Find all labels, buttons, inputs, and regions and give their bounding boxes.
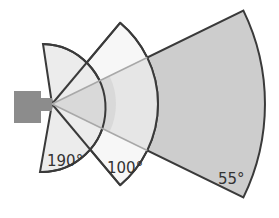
label-55: 55° xyxy=(218,170,245,188)
camera-lens xyxy=(40,98,52,111)
camera-icon xyxy=(14,91,52,123)
label-190: 190° xyxy=(47,152,83,170)
label-100: 100° xyxy=(107,159,143,177)
fov-diagram: 190° 100° 55° xyxy=(0,0,279,218)
camera-body xyxy=(14,91,41,123)
